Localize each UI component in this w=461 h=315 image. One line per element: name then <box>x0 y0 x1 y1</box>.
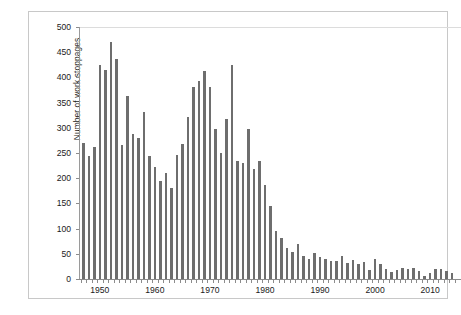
x-axis-tick-label: 2000 <box>366 285 385 295</box>
bar <box>137 138 140 279</box>
bar <box>330 261 333 279</box>
bar <box>214 129 217 279</box>
x-axis-tick-mark <box>273 280 274 283</box>
bar <box>154 167 157 279</box>
x-axis-tick-mark <box>427 280 428 283</box>
x-axis-tick-mark <box>394 280 395 283</box>
x-axis-tick-mark <box>119 280 120 283</box>
bar <box>412 268 415 279</box>
x-axis-tick-mark <box>328 280 329 283</box>
bar <box>110 42 113 279</box>
bar <box>148 156 151 279</box>
bar <box>445 271 448 279</box>
x-axis-tick-mark <box>185 280 186 283</box>
bar <box>429 273 432 279</box>
bar <box>236 161 239 279</box>
x-axis-tick-mark <box>202 280 203 283</box>
bar <box>176 155 179 279</box>
bar <box>159 181 162 279</box>
x-axis-tick-mark <box>114 280 115 283</box>
bar <box>170 188 173 279</box>
x-axis-tick-mark <box>416 280 417 283</box>
y-axis-tick-label: 50 <box>61 249 71 259</box>
x-axis-tick-label: 1990 <box>310 285 329 295</box>
x-axis-tick-mark <box>92 280 93 283</box>
y-axis-tick-label: 250 <box>57 148 71 158</box>
x-axis-tick-mark <box>345 280 346 283</box>
x-axis-tick-mark <box>361 280 362 283</box>
x-axis-tick-mark <box>147 280 148 283</box>
x-axis-tick-mark <box>180 280 181 283</box>
bar <box>165 173 168 279</box>
bar <box>297 244 300 279</box>
bar <box>346 263 349 279</box>
bar <box>247 129 250 279</box>
bar-series <box>80 27 461 279</box>
x-axis-tick-label: 1960 <box>145 285 164 295</box>
x-axis-tick-mark <box>350 280 351 283</box>
bar <box>390 272 393 279</box>
x-axis-tick-mark <box>334 280 335 283</box>
bar <box>280 238 283 279</box>
bar <box>115 59 118 279</box>
x-axis-tick-mark <box>196 280 197 283</box>
x-axis-tick-mark <box>433 280 434 283</box>
x-axis-tick-mark <box>240 280 241 283</box>
bar <box>379 264 382 279</box>
x-axis-tick-mark <box>400 280 401 283</box>
bar <box>368 270 371 279</box>
x-axis-tick-label: 1950 <box>90 285 109 295</box>
bar <box>308 259 311 279</box>
x-axis-tick-mark <box>290 280 291 283</box>
x-axis-tick-mark <box>411 280 412 283</box>
x-axis-tick-labels: 1950196019701980199020002010 <box>80 285 461 299</box>
x-axis-tick-mark <box>152 280 153 283</box>
x-axis-tick-mark <box>323 280 324 283</box>
chart-frame: Number of work stoppages 050100150200250… <box>28 11 448 299</box>
x-axis-tick-mark <box>86 280 87 283</box>
x-axis-tick-mark <box>306 280 307 283</box>
x-axis-tick-mark <box>312 280 313 283</box>
bar <box>220 153 223 279</box>
bar <box>231 65 234 279</box>
bar <box>258 161 261 279</box>
bar <box>209 87 212 279</box>
bar <box>132 134 135 279</box>
x-axis-tick-mark <box>130 280 131 283</box>
bar <box>385 269 388 279</box>
bar <box>434 269 437 279</box>
y-axis-tick-label: 450 <box>57 47 71 57</box>
bar <box>401 268 404 279</box>
x-axis-tick-mark <box>405 280 406 283</box>
x-axis-tick-mark <box>284 280 285 283</box>
x-axis-tick-mark <box>191 280 192 283</box>
x-axis-tick-mark <box>455 280 456 283</box>
bar <box>357 264 360 279</box>
x-axis-tick-mark <box>213 280 214 283</box>
bar <box>275 231 278 279</box>
x-axis-tick-mark <box>97 280 98 283</box>
bar <box>291 252 294 279</box>
bar <box>225 119 228 279</box>
y-axis-tick-labels: 050100150200250300350400450500 <box>37 12 75 298</box>
bar <box>198 81 201 279</box>
bar <box>104 70 107 279</box>
x-axis-tick-mark <box>251 280 252 283</box>
bar <box>440 269 443 279</box>
bar <box>407 269 410 279</box>
bar <box>396 270 399 279</box>
bar <box>423 276 426 279</box>
bar <box>335 261 338 279</box>
x-axis-tick-mark <box>262 280 263 283</box>
bar <box>451 273 454 279</box>
x-axis-tick-mark <box>257 280 258 283</box>
bar <box>363 262 366 279</box>
bar <box>93 147 96 279</box>
x-axis-tick-mark <box>169 280 170 283</box>
x-axis-tick-mark <box>422 280 423 283</box>
bar <box>99 65 102 279</box>
bar <box>264 185 267 279</box>
bar <box>203 71 206 279</box>
bar <box>242 163 245 279</box>
